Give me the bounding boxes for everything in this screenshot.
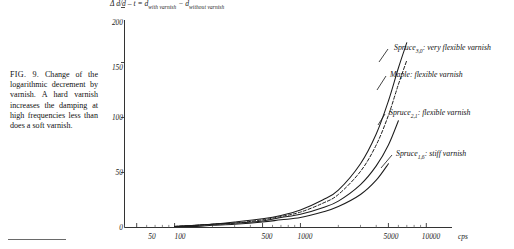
chart-curve-3 [175,121,399,227]
chart-plot-area [0,0,514,249]
chart-series-curves [175,43,407,227]
leader-line-maple [377,76,386,90]
chart-axes [125,20,453,228]
leader-line-spruce-2-1 [378,114,385,125]
figure-page: FIG. 9. Change of the logarithmic decrem… [0,0,514,249]
x-axis-ticks [125,223,427,228]
leader-line-spruce-3-0 [379,49,388,62]
chart-curve-1 [175,43,407,227]
curve-leader-lines [377,49,392,168]
